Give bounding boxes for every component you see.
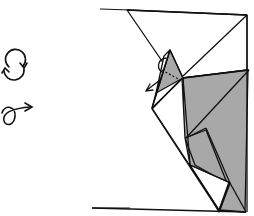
turn-over-icon — [2, 49, 27, 80]
origami-diagram — [0, 0, 254, 216]
twist-arrow-icon — [2, 103, 32, 125]
folded-paper — [92, 10, 249, 212]
